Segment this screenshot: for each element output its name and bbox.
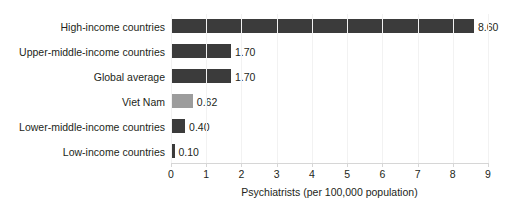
x-axis-tick <box>206 163 207 167</box>
category-label: Lower-middle-income countries <box>0 114 165 139</box>
gridline <box>488 14 489 163</box>
bar-value-label: 1.70 <box>235 39 255 64</box>
x-axis-tick <box>453 163 454 167</box>
bar-row: Global average1.70 <box>0 64 508 89</box>
x-axis-tick-label: 8 <box>450 168 456 180</box>
category-label: High-income countries <box>0 14 165 39</box>
gridline <box>206 14 207 163</box>
x-axis-tick <box>418 163 419 167</box>
x-axis-tick <box>312 163 313 167</box>
bar-row: Upper-middle-income countries1.70 <box>0 39 508 64</box>
x-axis-tick-label: 2 <box>239 168 245 180</box>
x-axis-tick-label: 9 <box>485 168 491 180</box>
x-axis-tick-label: 6 <box>379 168 385 180</box>
gridline <box>347 14 348 163</box>
bar-row: High-income countries8.60 <box>0 14 508 39</box>
x-axis-tick <box>171 163 172 167</box>
gridline <box>312 14 313 163</box>
bar-value-label: 1.70 <box>235 64 255 89</box>
bar-row: Lower-middle-income countries0.40 <box>0 114 508 139</box>
category-label: Global average <box>0 64 165 89</box>
bar <box>171 119 185 133</box>
x-axis-tick <box>277 163 278 167</box>
bar <box>171 44 231 58</box>
bar-row: Viet Nam0.62 <box>0 89 508 114</box>
bar-value-label: 0.10 <box>179 139 199 164</box>
gridline <box>171 14 172 163</box>
gridline <box>453 14 454 163</box>
x-axis-line <box>171 163 488 164</box>
gridline <box>382 14 383 163</box>
bar <box>171 94 193 108</box>
x-axis-tick <box>241 163 242 167</box>
x-axis-tick-label: 5 <box>344 168 350 180</box>
category-label: Viet Nam <box>0 89 165 114</box>
x-axis-tick-label: 0 <box>168 168 174 180</box>
x-axis-tick-label: 4 <box>309 168 315 180</box>
gridline <box>277 14 278 163</box>
bar <box>171 19 474 33</box>
gridline <box>241 14 242 163</box>
horizontal-bar-chart: High-income countries8.60Upper-middle-in… <box>0 0 508 210</box>
x-axis-title: Psychiatrists (per 100,000 population) <box>171 186 488 198</box>
x-axis-tick-label: 3 <box>274 168 280 180</box>
gridline <box>418 14 419 163</box>
x-axis-tick-label: 7 <box>415 168 421 180</box>
x-axis-tick-label: 1 <box>203 168 209 180</box>
bar-row: Low-income countries0.10 <box>0 139 508 164</box>
x-axis-tick <box>488 163 489 167</box>
x-axis-tick <box>382 163 383 167</box>
category-label: Upper-middle-income countries <box>0 39 165 64</box>
bar <box>171 69 231 83</box>
category-label: Low-income countries <box>0 139 165 164</box>
x-axis-tick <box>347 163 348 167</box>
